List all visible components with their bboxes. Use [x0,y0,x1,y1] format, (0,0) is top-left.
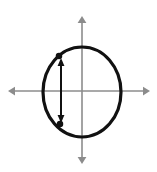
figure-canvas [0,0,157,172]
chord-endpoint-bottom-dot [57,121,64,128]
chord-endpoint-top-dot [56,53,63,60]
background [0,0,157,172]
circle-chord-diagram [0,0,157,172]
